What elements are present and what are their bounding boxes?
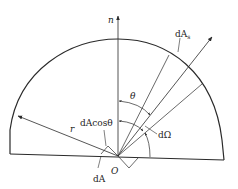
label-dAcos: dAcosθ: [80, 118, 113, 128]
area-element-square: [101, 146, 118, 156]
hemisphere-arc: [10, 39, 224, 160]
theta-arc: [119, 101, 150, 115]
label-origin: O: [111, 166, 119, 176]
label-dOmega: dΩ: [158, 130, 171, 140]
label-normal: n: [108, 15, 114, 25]
label-dAs: dAs: [175, 29, 190, 40]
leader-dA: [98, 156, 101, 168]
label-dA: dA: [93, 174, 106, 184]
angle-arc-base: [145, 133, 150, 157]
leader-dAcos: [104, 130, 106, 146]
leader-dOmega: [145, 126, 157, 134]
hemisphere-diagram: n dAs θ dΩ dAcosθ r O dA: [0, 0, 238, 189]
leader-dAs: [178, 38, 180, 52]
cone-line-upper: [118, 55, 169, 156]
label-theta: θ: [130, 91, 136, 101]
label-radius: r: [70, 124, 75, 134]
